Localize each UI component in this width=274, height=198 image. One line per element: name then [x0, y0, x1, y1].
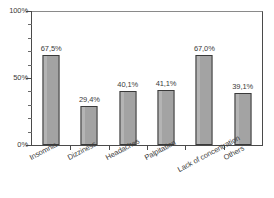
bar-insomnia[interactable]: [43, 55, 60, 145]
x-tick-5: [224, 146, 225, 150]
bars-layer: 67,5% 29,4% 40,1% 41,1% 67,0% 39,1%: [32, 11, 262, 145]
bar-value-headaches: 40,1%: [117, 81, 138, 89]
bar-slot-others: 39,1%: [224, 11, 262, 145]
bar-value-palpitation: 41,1%: [156, 80, 177, 88]
x-tick-2: [109, 146, 110, 150]
bar-slot-insomnia: 67,5%: [32, 11, 70, 145]
bar-slot-lack-of-concentration: 67,0%: [185, 11, 223, 145]
bar-value-others: 39,1%: [232, 83, 253, 91]
bar-dizziness[interactable]: [81, 106, 98, 145]
bar-others[interactable]: [234, 93, 251, 145]
bar-chart: 100% 50% 0% 67,5% 29,4% 40,1% 41,1% 67,0…: [0, 0, 274, 198]
bar-lack-of-concentration[interactable]: [196, 55, 213, 145]
y-axis-label-50: 50%: [0, 74, 28, 82]
bar-slot-headaches: 40,1%: [109, 11, 147, 145]
bar-value-lack-of-concentration: 67,0%: [194, 45, 215, 53]
x-axis-ticks: [32, 146, 262, 150]
x-tick-1: [70, 146, 71, 150]
bar-value-dizziness: 29,4%: [79, 96, 100, 104]
bar-slot-palpitation: 41,1%: [147, 11, 185, 145]
bar-value-insomnia: 67,5%: [41, 45, 62, 53]
x-tick-4: [185, 146, 186, 150]
bar-slot-dizziness: 29,4%: [70, 11, 108, 145]
y-axis-label-0: 0%: [0, 141, 28, 149]
y-axis-labels: 100% 50% 0%: [0, 0, 28, 198]
y-axis-label-100: 100%: [0, 7, 28, 15]
bar-headaches[interactable]: [119, 91, 136, 145]
bar-palpitation[interactable]: [158, 90, 175, 145]
x-tick-3: [147, 146, 148, 150]
